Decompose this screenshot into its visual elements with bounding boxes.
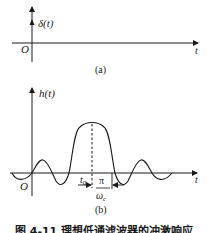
h-label: h(t) bbox=[39, 88, 55, 99]
impulse-arrowhead-icon bbox=[30, 19, 35, 25]
delay-label: t0 bbox=[80, 175, 86, 187]
panel-a-impulse bbox=[12, 7, 198, 62]
time-label-a: t bbox=[195, 46, 198, 56]
omega-subscript: c bbox=[103, 195, 106, 203]
origin-label-b: O bbox=[20, 181, 28, 192]
time-label-b: t bbox=[195, 175, 198, 185]
origin-label-a: O bbox=[21, 44, 29, 55]
delta-label: δ(t) bbox=[38, 18, 54, 29]
width-denominator: ωc bbox=[96, 191, 106, 203]
caption-b: (b) bbox=[95, 205, 107, 215]
width-numerator: π bbox=[99, 176, 104, 186]
figure-caption: 图 4-11 理想低通滤波器的冲激响应 bbox=[0, 222, 208, 233]
delay-label-subscript: 0 bbox=[83, 179, 87, 187]
omega-label: ω bbox=[96, 190, 103, 201]
caption-a: (a) bbox=[95, 65, 106, 75]
